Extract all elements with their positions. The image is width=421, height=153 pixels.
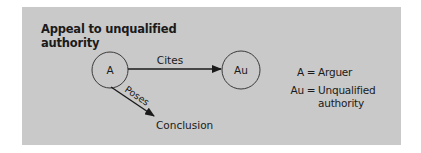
legend-value: Arguer bbox=[318, 66, 352, 79]
legend-key: Au bbox=[274, 84, 304, 97]
legend-key: A bbox=[274, 66, 304, 79]
legend-value: Unqualifiedauthority bbox=[318, 84, 375, 110]
edge-cites: Cites bbox=[128, 54, 221, 69]
legend-equals: = bbox=[304, 66, 318, 79]
diagram-canvas: Appeal to unqualified authority A Au Cit… bbox=[0, 0, 421, 153]
diagram-graphic: A Au Cites Poses Conclusion bbox=[0, 0, 421, 153]
legend-equals: = bbox=[304, 84, 318, 97]
edge-poses: Poses bbox=[111, 84, 154, 116]
node-authority: Au bbox=[222, 51, 260, 89]
legend-item-arguer: A=Arguer bbox=[274, 66, 352, 79]
node-authority-label: Au bbox=[234, 64, 248, 76]
node-arguer: A bbox=[92, 52, 128, 88]
legend-item-authority: Au=Unqualifiedauthority bbox=[274, 84, 375, 110]
node-arguer-label: A bbox=[106, 64, 114, 76]
edge-cites-label: Cites bbox=[157, 54, 183, 66]
node-conclusion-label: Conclusion bbox=[156, 119, 213, 131]
